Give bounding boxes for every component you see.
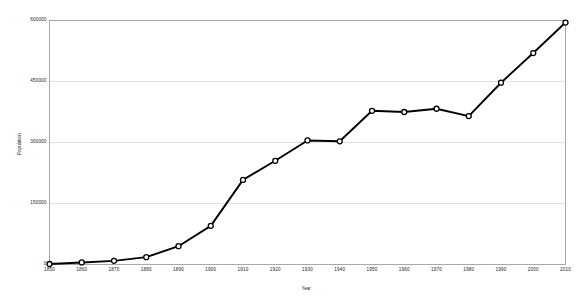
x-tick-label: 1970 — [425, 268, 449, 273]
data-point — [499, 80, 504, 85]
x-tick-label: 1850 — [38, 268, 62, 273]
population-line-chart: 0150000300000450000600000 18501860187018… — [0, 0, 580, 299]
x-tick-label: 1870 — [102, 268, 126, 273]
data-point — [47, 262, 52, 267]
data-point — [402, 110, 407, 115]
x-tick-label: 2010 — [554, 268, 578, 273]
x-tick-label: 1960 — [392, 268, 416, 273]
x-axis-title: Year — [302, 287, 311, 292]
gridlines — [50, 21, 566, 204]
data-point — [112, 258, 117, 263]
x-tick-label: 1930 — [296, 268, 320, 273]
x-tick-label: 1880 — [134, 268, 158, 273]
data-point — [337, 139, 342, 144]
data-point — [434, 106, 439, 111]
x-tick-label: 1990 — [489, 268, 513, 273]
x-tick-label: 1890 — [167, 268, 191, 273]
x-tick-label: 1980 — [457, 268, 481, 273]
y-tick-label: 150000 — [30, 201, 46, 206]
y-tick-label: 0 — [44, 262, 47, 267]
data-point — [241, 177, 246, 182]
x-tick-label: 2000 — [521, 268, 545, 273]
chart-canvas — [0, 0, 580, 299]
data-point — [273, 158, 278, 163]
x-tick-label: 1910 — [231, 268, 255, 273]
data-point — [531, 51, 536, 56]
y-tick-label: 600000 — [30, 18, 46, 23]
y-axis-title: Population — [18, 133, 23, 155]
data-point — [208, 223, 213, 228]
y-tick-label: 300000 — [30, 140, 46, 145]
y-tick-label: 450000 — [30, 79, 46, 84]
data-point — [79, 260, 84, 265]
data-point — [305, 138, 310, 143]
data-point — [466, 114, 471, 119]
data-point-markers — [47, 20, 568, 266]
data-point — [176, 244, 181, 249]
x-tick-label: 1900 — [199, 268, 223, 273]
data-point — [563, 20, 568, 25]
data-point — [370, 108, 375, 113]
x-tick-label: 1920 — [263, 268, 287, 273]
x-tick-label: 1950 — [360, 268, 384, 273]
x-tick-label: 1940 — [328, 268, 352, 273]
x-tick-label: 1860 — [70, 268, 94, 273]
data-point — [144, 255, 149, 260]
